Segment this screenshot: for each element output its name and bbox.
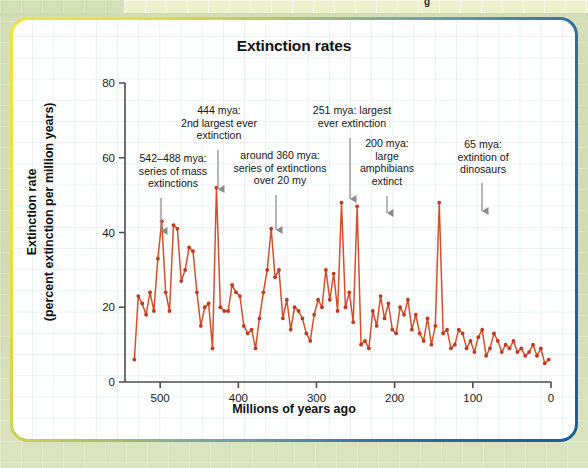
data-point xyxy=(148,290,152,294)
data-point xyxy=(277,268,281,272)
data-point xyxy=(519,346,523,350)
annotation-line: series of extinctions xyxy=(233,162,326,174)
data-point xyxy=(144,313,148,317)
data-point xyxy=(332,272,336,276)
ann-200: 200 mya:largeamphibiansextinct xyxy=(360,137,414,213)
data-point xyxy=(422,339,426,343)
data-point xyxy=(164,290,168,294)
data-point xyxy=(351,320,355,324)
data-point xyxy=(222,309,226,313)
data-point xyxy=(402,313,406,317)
data-point xyxy=(359,343,363,347)
annotation-line: ever extinction xyxy=(318,117,386,129)
data-point xyxy=(527,350,531,354)
data-point xyxy=(355,204,359,208)
data-point xyxy=(316,298,320,302)
data-point xyxy=(515,350,519,354)
data-point xyxy=(473,350,477,354)
data-point xyxy=(414,313,418,317)
data-point xyxy=(312,313,316,317)
data-point xyxy=(363,339,367,343)
top-band xyxy=(0,13,588,16)
data-point xyxy=(308,339,312,343)
data-point xyxy=(207,302,211,306)
data-point xyxy=(250,328,254,332)
data-point xyxy=(539,346,543,350)
data-point xyxy=(347,290,351,294)
x-tick-label: 200 xyxy=(385,392,404,404)
data-point xyxy=(535,354,539,358)
y-tick-label: 40 xyxy=(102,227,115,239)
data-point xyxy=(273,275,277,279)
annotation-line: around 360 mya: xyxy=(240,149,320,161)
annotation-line: extinct xyxy=(372,175,403,187)
data-point xyxy=(367,346,371,350)
top-strip-label: g xyxy=(424,0,430,7)
data-point xyxy=(469,339,473,343)
annotation-group: 542–488 mya:series of massextinctions444… xyxy=(139,104,509,231)
data-point xyxy=(437,201,441,205)
x-tick-label: 0 xyxy=(548,392,554,404)
annotation-line: over 20 my xyxy=(254,174,307,186)
y-tick-label: 20 xyxy=(102,301,115,313)
data-point xyxy=(547,358,551,362)
data-point xyxy=(187,246,191,250)
data-point xyxy=(265,268,269,272)
data-point xyxy=(344,305,348,309)
data-point xyxy=(191,249,195,253)
annotation-line: 444 mya: xyxy=(197,104,241,116)
data-point xyxy=(387,302,391,306)
data-point xyxy=(183,268,187,272)
annotation-line: 251 mya: largest xyxy=(313,104,391,116)
y-tick-label: 60 xyxy=(102,152,115,164)
data-point xyxy=(543,361,547,365)
data-point xyxy=(453,343,457,347)
annotation-line: dinosaurs xyxy=(460,163,506,175)
data-point xyxy=(336,309,340,313)
data-point xyxy=(430,343,434,347)
data-point xyxy=(328,298,332,302)
x-tick-label: 400 xyxy=(229,392,248,404)
data-point xyxy=(254,346,258,350)
data-point xyxy=(195,290,199,294)
data-point xyxy=(132,358,136,362)
data-point xyxy=(258,317,262,321)
data-point xyxy=(394,332,398,336)
annotation-line: 542–488 mya: xyxy=(139,152,206,164)
data-point xyxy=(383,317,387,321)
x-axis-ticks: 5004003002001000 xyxy=(151,382,555,404)
data-point xyxy=(285,298,289,302)
data-point xyxy=(136,294,140,298)
data-point xyxy=(152,309,156,313)
data-point xyxy=(418,332,422,336)
data-point xyxy=(410,328,414,332)
data-point xyxy=(476,335,480,339)
ann-542-488: 542–488 mya:series of massextinctions xyxy=(139,152,207,231)
y-tick-label: 80 xyxy=(102,77,115,89)
data-point xyxy=(504,343,508,347)
ann-65: 65 mya:extintion ofdinosaurs xyxy=(457,138,508,211)
data-point xyxy=(242,324,246,328)
data-point xyxy=(269,227,273,231)
annotation-line: extinction xyxy=(197,129,242,141)
y-axis-ticks: 020406080 xyxy=(102,77,125,388)
data-point xyxy=(156,257,160,261)
figure-card: Extinction rates Extinction rate (percen… xyxy=(10,17,578,442)
data-point xyxy=(379,294,383,298)
data-point xyxy=(238,294,242,298)
data-point xyxy=(199,324,203,328)
data-point xyxy=(261,290,265,294)
data-point xyxy=(449,346,453,350)
annotation-line: 65 mya: xyxy=(464,138,502,150)
annotation-line: extintion of xyxy=(457,151,508,163)
data-point xyxy=(218,305,222,309)
ann-360: around 360 mya:series of extinctionsover… xyxy=(233,149,326,230)
data-point xyxy=(496,339,500,343)
data-point xyxy=(230,283,234,287)
data-point xyxy=(371,309,375,313)
data-point xyxy=(445,328,449,332)
data-point xyxy=(500,350,504,354)
y-tick-label: 0 xyxy=(109,376,115,388)
annotation-line: series of mass xyxy=(139,165,207,177)
data-point xyxy=(390,328,394,332)
